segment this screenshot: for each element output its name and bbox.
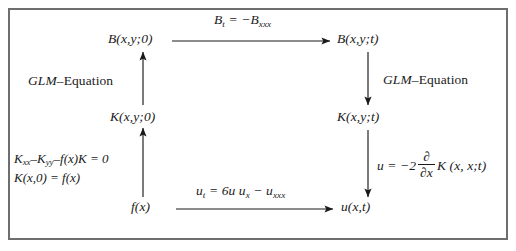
node-u-solution-label: u(x,t): [341, 199, 370, 214]
node-b-initial-label: B(x,y;0): [108, 31, 153, 46]
node-u-solution: u(x,t): [341, 199, 370, 215]
diagram-frame: [8, 8, 508, 240]
glm-italic-left: GLM: [28, 73, 57, 88]
node-k-time-label: K(x,y;t): [337, 109, 379, 124]
edge-label-right-glm-equation: GLM–Equation: [383, 72, 468, 88]
node-b-time: B(x,y;t): [337, 31, 379, 47]
equation-word-right: –Equation: [412, 72, 468, 87]
left-equation-line-1: Kxx–Kyy–f(x)K = 0: [14, 150, 109, 169]
edge-label-left-glm-equation: GLM–Equation: [28, 73, 113, 89]
glm-italic-right: GLM: [383, 72, 412, 87]
partial-derivative-fraction: ∂∂x: [418, 150, 435, 181]
equation-word-left: –Equation: [57, 73, 113, 88]
edge-label-u-reconstruction-formula: u = −2∂∂xK (x, x;t): [377, 150, 486, 181]
node-k-time: K(x,y;t): [337, 109, 379, 125]
node-f-initial: f(x): [131, 199, 150, 215]
left-equation-line-2: K(x,0) = f(x): [14, 169, 109, 188]
node-k-initial: K(x,y;0): [110, 109, 155, 125]
edge-label-bottom-kdv-equation: ut = 6u ux − uxxx: [196, 183, 285, 200]
node-f-initial-label: f(x): [131, 199, 150, 214]
node-k-initial-label: K(x,y;0): [110, 109, 155, 124]
edge-label-top-linear-equation: Bt = −Bxxx: [214, 12, 271, 29]
node-b-time-label: B(x,y;t): [337, 31, 379, 46]
diagram-canvas: B(x,y;0) B(x,y;t) K(x,y;0) K(x,y;t) f(x)…: [0, 0, 516, 251]
node-b-initial: B(x,y;0): [108, 31, 153, 47]
left-equation-block: Kxx–Kyy–f(x)K = 0 K(x,0) = f(x): [14, 150, 109, 188]
